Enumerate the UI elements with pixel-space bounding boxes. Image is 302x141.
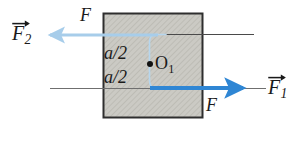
label-force-vector-1-symbol: F xyxy=(268,76,280,98)
label-force-vector-2-subscript: 2 xyxy=(24,32,31,47)
label-dimension-upper: a/2 xyxy=(104,44,127,62)
label-center-point-subscript: 1 xyxy=(168,62,174,76)
label-force-vector-1: F 1 xyxy=(268,77,287,97)
label-center-point: O1 xyxy=(155,54,174,72)
label-dimension-lower: a/2 xyxy=(104,68,127,86)
label-force-top-symbol: F xyxy=(80,5,91,25)
label-force-bottom: F xyxy=(206,96,217,114)
label-dimension-upper-text: a/2 xyxy=(104,43,127,63)
label-force-vector-2-symbol: F xyxy=(12,22,24,44)
label-force-vector-1-subscript: 1 xyxy=(280,86,287,101)
label-dimension-lower-text: a/2 xyxy=(104,67,127,87)
label-force-vector-2: F 2 xyxy=(12,23,31,43)
label-force-top: F xyxy=(80,6,91,24)
center-point-dot xyxy=(147,61,153,67)
label-force-bottom-symbol: F xyxy=(206,95,217,115)
hatched-block xyxy=(104,14,203,118)
label-center-point-symbol: O xyxy=(155,53,168,73)
figure-canvas xyxy=(0,0,302,141)
force-couple-figure: F 2 F a/2 a/2 O1 F F 1 xyxy=(0,0,302,141)
